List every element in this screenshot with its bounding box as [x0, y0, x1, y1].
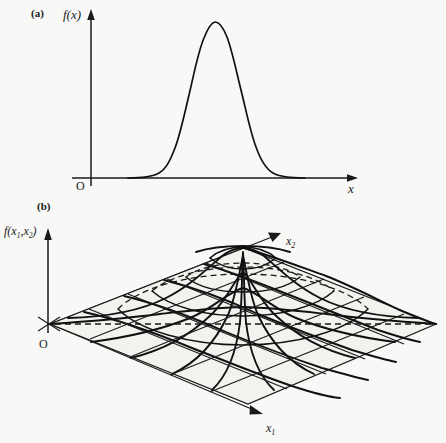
panel-a-gaussian-curve [128, 22, 305, 178]
panel-b-tag: (b) [37, 200, 51, 213]
panel-b-z-axis-label: f(x1,x2) [4, 224, 36, 240]
panel-b-x1-axis-arrowhead [250, 405, 264, 415]
panel-b-z-label-close: ) [31, 224, 36, 238]
panel-a-x-axis-label: x [347, 181, 354, 196]
panel-b-origin-label: O [39, 337, 48, 351]
panel-b-x2-label-sub: 2 [291, 241, 295, 250]
panel-a: (a) f(x) x O [31, 7, 358, 196]
panel-b-x2-axis-label: x2 [285, 234, 295, 250]
panel-b-z-label-part1: f(x [4, 224, 17, 238]
panel-a-tag: (a) [31, 7, 44, 20]
panel-b-x1-label-sub: 1 [271, 428, 275, 437]
panel-a-y-axis-arrowhead [87, 9, 95, 20]
panel-a-origin-label: O [76, 179, 85, 193]
panel-b-z-axis-arrowhead [44, 228, 52, 240]
panel-a-y-axis-label: f(x) [63, 7, 81, 22]
panel-b: (b) f(x1,x2) O x2 x1 [4, 200, 436, 437]
figure-container: (a) f(x) x O (b) f(x1,x2) [0, 0, 446, 443]
panel-b-x1-axis-label: x1 [265, 421, 275, 437]
gaussian-figure-svg: (a) f(x) x O (b) f(x1,x2) [0, 0, 446, 443]
